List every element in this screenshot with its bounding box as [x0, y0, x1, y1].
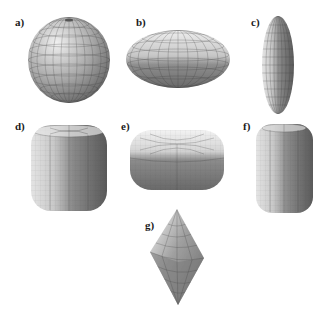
sphere-shape	[28, 17, 110, 103]
prolate-spheroid-shape	[260, 16, 296, 114]
oblate-spheroid-shape	[126, 30, 230, 88]
shape-figure: a) b) c) d) e) f) g)	[0, 0, 328, 321]
panel-label-e: e)	[121, 121, 130, 132]
elongated-rounded-box-shape	[256, 124, 313, 213]
rounded-cube-shape	[31, 125, 107, 211]
shapes-canvas	[0, 0, 328, 321]
panel-label-a: a)	[15, 17, 24, 28]
panel-label-f: f)	[243, 121, 250, 132]
flattened-rounded-box-shape	[130, 130, 224, 190]
bicone-shape	[150, 209, 204, 305]
panel-label-c: c)	[251, 17, 260, 28]
panel-label-b: b)	[136, 17, 146, 28]
panel-label-g: g)	[145, 220, 154, 231]
panel-label-d: d)	[15, 121, 25, 132]
